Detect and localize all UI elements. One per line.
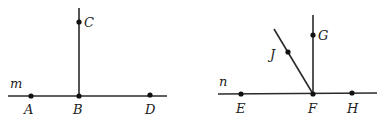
point-b [76, 93, 81, 98]
point-c [76, 19, 81, 24]
point-f [310, 91, 315, 96]
point-h [349, 90, 354, 95]
point-e [238, 91, 243, 96]
label-point-c: C [84, 15, 94, 30]
label-point-b: B [72, 102, 83, 117]
point-j [285, 49, 290, 54]
label-point-e: E [235, 101, 246, 116]
ray-fj [274, 29, 313, 94]
point-g [310, 32, 315, 37]
geometry-diagram: m A B C D n E F G J H [0, 0, 384, 125]
label-point-g: G [318, 28, 328, 43]
label-line-n: n [219, 74, 227, 89]
point-d [147, 92, 152, 97]
label-point-f: F [307, 101, 318, 116]
label-line-m: m [10, 76, 22, 91]
figure-right: n E F G J H [218, 15, 377, 116]
label-point-a: A [23, 102, 33, 117]
figure-left: m A B C D [8, 8, 167, 117]
label-point-h: H [346, 101, 359, 116]
point-a [28, 93, 33, 98]
label-point-j: J [267, 47, 276, 62]
label-point-d: D [144, 102, 156, 117]
